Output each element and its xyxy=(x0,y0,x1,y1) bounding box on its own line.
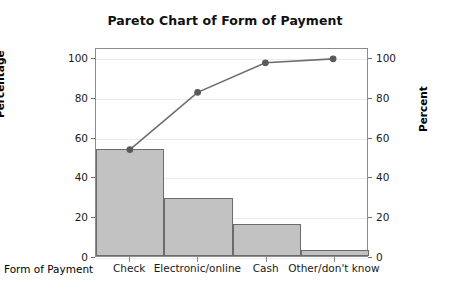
y-tick-label-right: 80 xyxy=(376,93,406,104)
x-axis-title: Form of Payment xyxy=(4,263,93,275)
line-marker xyxy=(127,146,134,153)
y-tick-label-left: 60 xyxy=(62,133,88,144)
plot-area xyxy=(95,48,368,257)
y-tick-label-left: 80 xyxy=(62,93,88,104)
y-tick-mark-right xyxy=(368,177,372,178)
y-tick-mark-left xyxy=(91,257,95,258)
x-tick-mark xyxy=(197,257,198,262)
x-tick-mark xyxy=(266,257,267,262)
x-tick-label: Other/don't know xyxy=(288,262,379,274)
y-tick-label-right: 60 xyxy=(376,133,406,144)
y-tick-label-right: 0 xyxy=(376,252,406,263)
y-tick-mark-left xyxy=(91,98,95,99)
y-tick-mark-right xyxy=(368,58,372,59)
y-tick-mark-right xyxy=(368,257,372,258)
y-tick-mark-left xyxy=(91,138,95,139)
y-tick-mark-left xyxy=(91,217,95,218)
y-tick-label-left: 40 xyxy=(62,172,88,183)
pareto-chart: Pareto Chart of Form of Payment Percenta… xyxy=(0,0,450,289)
cumulative-line xyxy=(130,59,333,150)
y-tick-mark-left xyxy=(91,58,95,59)
line-marker xyxy=(330,55,337,62)
y-tick-label-left: 100 xyxy=(62,53,88,64)
x-tick-label: Electronic/online xyxy=(154,262,241,274)
x-tick-label: Cash xyxy=(253,262,279,274)
chart-title: Pareto Chart of Form of Payment xyxy=(0,13,450,28)
y-tick-label-left: 0 xyxy=(62,252,88,263)
line-marker xyxy=(262,59,269,66)
y-axis-title-right: Percent xyxy=(417,86,429,132)
cumulative-line-layer xyxy=(96,49,367,256)
x-tick-mark xyxy=(334,257,335,262)
line-marker xyxy=(194,89,201,96)
x-tick-mark xyxy=(129,257,130,262)
y-tick-mark-right xyxy=(368,138,372,139)
y-tick-mark-right xyxy=(368,217,372,218)
y-tick-label-right: 40 xyxy=(376,172,406,183)
y-axis-title-left: Percentage xyxy=(0,50,6,118)
y-tick-mark-right xyxy=(368,98,372,99)
y-tick-mark-left xyxy=(91,177,95,178)
gridline xyxy=(96,258,367,259)
y-tick-label-right: 20 xyxy=(376,212,406,223)
y-tick-label-left: 20 xyxy=(62,212,88,223)
x-tick-label: Check xyxy=(113,262,145,274)
y-tick-label-right: 100 xyxy=(376,53,406,64)
